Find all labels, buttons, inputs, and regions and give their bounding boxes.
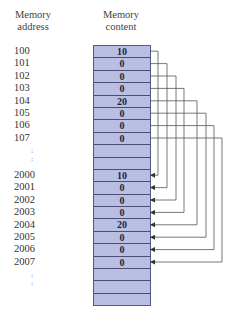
copy-connectors — [0, 0, 234, 322]
connector-arrow — [150, 101, 197, 225]
